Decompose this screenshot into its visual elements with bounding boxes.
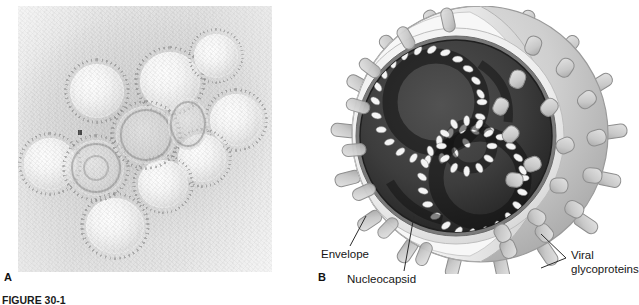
micrograph-vignette: [18, 6, 272, 272]
panel-letter-a: A: [4, 271, 12, 283]
panel-letter-b: B: [318, 271, 326, 283]
virus-diagram-svg: [330, 6, 630, 274]
panel-a-electron-micrograph: [18, 6, 272, 272]
figure-caption: FIGURE 30-1: [2, 294, 630, 305]
label-viral-glycoproteins-line1: Viral: [571, 248, 633, 262]
label-envelope: Envelope: [321, 247, 369, 261]
label-nucleocapsid: Nucleocapsid: [347, 272, 416, 286]
label-viral-glycoproteins: Viral glycoproteins: [571, 248, 633, 276]
panel-b-virus-schematic: [330, 6, 630, 274]
label-viral-glycoproteins-line2: glycoproteins: [571, 262, 633, 276]
